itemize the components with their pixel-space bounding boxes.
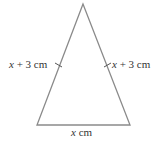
triangle-diagram: x + 3 cm x + 3 cm x cm	[0, 0, 162, 142]
left-side-label: x + 3 cm	[8, 58, 48, 70]
base-label: x cm	[70, 126, 93, 138]
right-side-label: x + 3 cm	[111, 58, 151, 70]
